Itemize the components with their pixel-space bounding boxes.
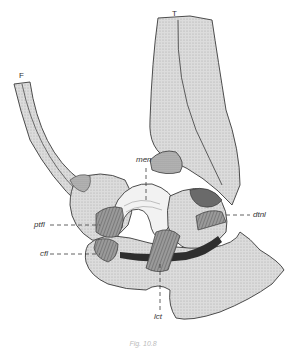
fibula-label: F (19, 72, 24, 80)
tibia-bone (150, 16, 240, 205)
lct-label: lct (154, 313, 162, 321)
cfl-label: cfl (40, 250, 48, 258)
tibia-label: T (172, 10, 177, 18)
dtnl-label: dtnl (253, 211, 266, 219)
anatomical-figure: F T men ptfl cfl dtnl lct Fig. 10.8 (0, 0, 286, 352)
ptfl-ligament (96, 207, 123, 237)
figure-caption: Fig. 10.8 (0, 340, 286, 347)
ptfl-label: ptfl (34, 221, 45, 229)
ankle-joint-illustration (0, 0, 286, 352)
men-label: men (136, 156, 152, 164)
